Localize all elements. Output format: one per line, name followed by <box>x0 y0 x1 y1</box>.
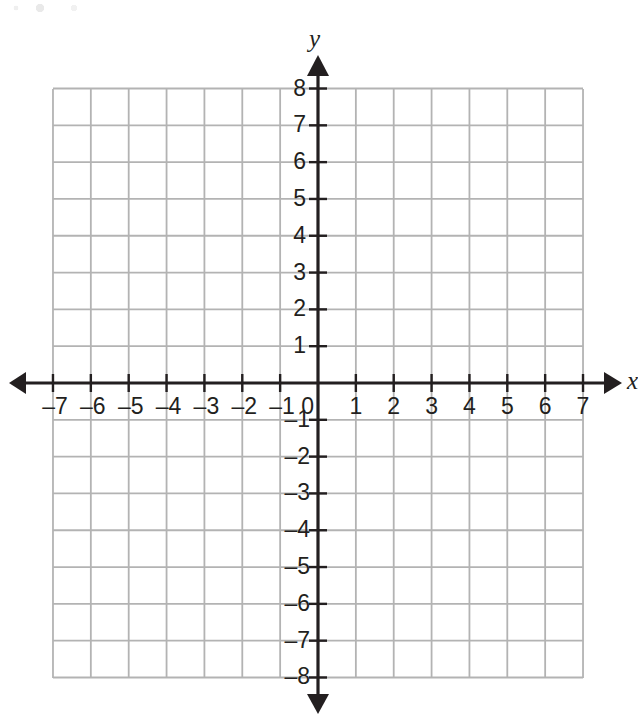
y-tick-label-neg7: –7 <box>284 629 310 652</box>
y-tick-label-8: 8 <box>293 77 306 100</box>
x-tick-label-5: 5 <box>501 395 514 418</box>
x-tick-label-neg2: –2 <box>231 395 257 418</box>
x-tick-label-4: 4 <box>463 395 476 418</box>
x-tick-label-neg6: –6 <box>80 395 106 418</box>
x-tick-label-1: 1 <box>349 395 362 418</box>
y-tick-label-neg2: –2 <box>284 445 310 468</box>
x-tick-label-7: 7 <box>577 395 590 418</box>
y-tick-label-7: 7 <box>293 113 306 136</box>
y-axis-label: y <box>309 26 320 51</box>
x-tick-label-neg4: –4 <box>156 395 182 418</box>
y-tick-label-4: 4 <box>293 224 306 247</box>
y-tick-label-5: 5 <box>293 187 306 210</box>
x-tick-label-neg7: –7 <box>42 395 68 418</box>
y-tick-label-2: 2 <box>293 297 306 320</box>
y-tick-label-neg1: –1 <box>284 408 310 431</box>
y-tick-label-neg6: –6 <box>284 592 310 615</box>
x-tick-label-3: 3 <box>425 395 438 418</box>
y-tick-label-neg8: –8 <box>284 665 310 688</box>
x-tick-label-2: 2 <box>387 395 400 418</box>
x-tick-label-neg5: –5 <box>118 395 144 418</box>
y-tick-label-neg5: –5 <box>284 555 310 578</box>
y-tick-label-neg4: –4 <box>284 518 310 541</box>
y-tick-label-3: 3 <box>293 261 306 284</box>
axes <box>9 55 622 714</box>
y-tick-label-6: 6 <box>293 150 306 173</box>
y-tick-label-1: 1 <box>293 334 306 357</box>
x-axis-label: x <box>627 368 638 393</box>
y-tick-label-neg3: –3 <box>284 481 310 504</box>
x-tick-label-6: 6 <box>539 395 552 418</box>
x-tick-label-neg3: –3 <box>194 395 220 418</box>
